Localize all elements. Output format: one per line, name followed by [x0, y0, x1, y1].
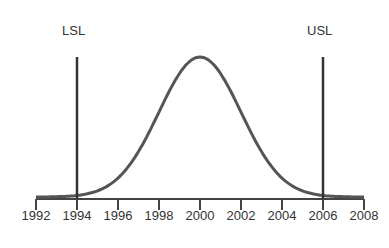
- x-tick-label: 1996: [104, 208, 133, 223]
- x-tick-label: 1994: [63, 208, 92, 223]
- x-tick-label: 2002: [227, 208, 256, 223]
- usl-label: USL: [307, 23, 332, 38]
- x-tick-label: 2000: [186, 208, 215, 223]
- normal-distribution-curve: [36, 57, 364, 197]
- x-tick-label: 2008: [350, 208, 379, 223]
- x-tick-label: 1998: [145, 208, 174, 223]
- x-tick-label: 2004: [268, 208, 297, 223]
- x-tick-label: 1992: [22, 208, 51, 223]
- lsl-label: LSL: [62, 23, 85, 38]
- x-tick-label: 2006: [309, 208, 338, 223]
